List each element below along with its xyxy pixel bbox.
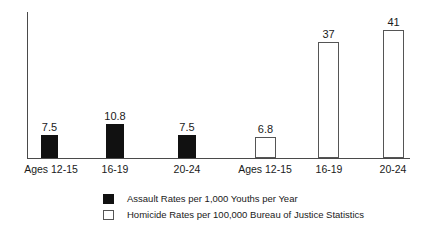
bar-rect-assault-20-24 [178,135,196,158]
bar-value-1: 10.8 [90,111,140,122]
x-axis-label-2: 20-24 [160,163,214,175]
bar-value-0: 7.5 [25,122,74,133]
x-axis-label-4: 16-19 [302,163,356,175]
legend-label-assault: Assault Rates per 1,000 Youths per Year [127,193,298,205]
bar-rect-homicide-ages-12-15 [255,137,276,158]
x-axis-label-5: 20-24 [366,163,420,175]
bar-rect-homicide-16-19 [318,42,339,158]
plot-area: 7.5 10.8 7.5 6.8 37 41 [0,0,425,158]
bar-value-5: 41 [368,17,419,28]
x-axis-line [27,158,410,159]
bar-rect-assault-16-19 [106,124,124,158]
legend-label-homicide: Homicide Rates per 100,000 Bureau of Jus… [127,209,364,221]
bar-value-4: 37 [303,29,354,40]
bar-value-3: 6.8 [240,124,291,135]
legend-swatch-filled-icon [103,194,114,204]
bar-rect-homicide-20-24 [383,30,404,158]
bar-rect-assault-ages-12-15 [41,135,58,158]
legend-swatch-hollow-icon [103,210,114,220]
bar-chart: 7.5 10.8 7.5 6.8 37 41 Ages 12-15 16-19 … [0,0,425,238]
x-axis-label-1: 16-19 [88,163,142,175]
bar-value-2: 7.5 [162,122,212,133]
x-axis-label-0: Ages 12-15 [13,163,89,175]
x-axis-label-3: Ages 12-15 [227,163,303,175]
